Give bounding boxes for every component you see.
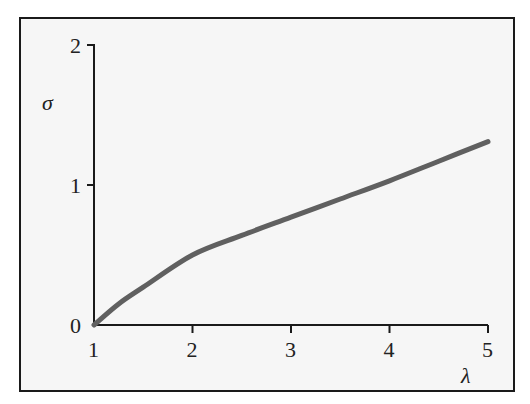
x-tick-label: 1 bbox=[88, 337, 99, 362]
line-chart: 012 12345 σ λ bbox=[0, 0, 530, 404]
y-axis-label: σ bbox=[42, 90, 54, 115]
x-tick-label: 4 bbox=[384, 337, 395, 362]
y-tick-label: 2 bbox=[70, 33, 81, 58]
x-tick-label: 5 bbox=[482, 337, 493, 362]
x-axis-label: λ bbox=[460, 363, 471, 388]
x-tick-label: 3 bbox=[285, 337, 296, 362]
x-ticks: 12345 bbox=[88, 325, 493, 362]
y-ticks: 012 bbox=[70, 33, 94, 338]
y-tick-label: 0 bbox=[70, 313, 81, 338]
y-tick-label: 1 bbox=[70, 173, 81, 198]
data-line-sigma bbox=[94, 142, 488, 325]
x-tick-label: 2 bbox=[187, 337, 198, 362]
